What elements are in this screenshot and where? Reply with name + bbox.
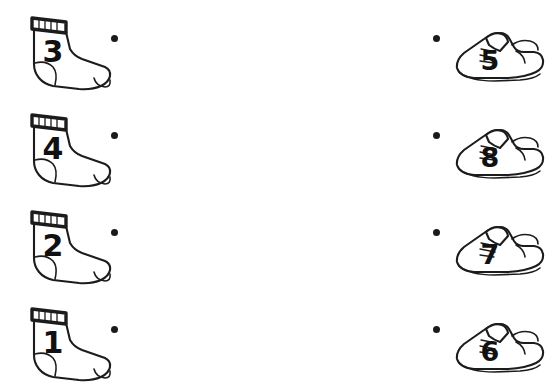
sock-number: 2 [43, 228, 64, 263]
shoe-item[interactable]: 5 [450, 18, 548, 88]
sock-item[interactable]: 2 [22, 204, 117, 292]
sock-item[interactable]: 4 [22, 107, 117, 195]
shoe-icon: 8 [450, 115, 548, 185]
sock-icon: 4 [22, 107, 117, 195]
sock-icon: 2 [22, 204, 117, 292]
matching-worksheet: 3 5 4 [0, 0, 559, 389]
shoe-icon: 7 [450, 212, 548, 282]
shoe-number: 8 [481, 142, 500, 173]
sock-icon: 3 [22, 10, 117, 98]
connector-dot-icon[interactable] [433, 35, 440, 42]
connector-dot-icon[interactable] [111, 326, 118, 333]
connector-dot-icon[interactable] [433, 229, 440, 236]
shoe-item[interactable]: 7 [450, 212, 548, 282]
shoe-icon: 6 [450, 309, 548, 379]
shoe-number: 6 [481, 336, 500, 367]
sock-number: 1 [43, 325, 64, 360]
match-row: 1 6 [0, 291, 559, 388]
shoe-item[interactable]: 8 [450, 115, 548, 185]
sock-item[interactable]: 3 [22, 10, 117, 98]
sock-number: 4 [43, 131, 64, 166]
shoe-number: 7 [481, 239, 500, 270]
match-row: 3 5 [0, 0, 559, 97]
sock-icon: 1 [22, 301, 117, 389]
sock-number: 3 [43, 34, 64, 69]
connector-dot-icon[interactable] [433, 132, 440, 139]
connector-dot-icon[interactable] [111, 132, 118, 139]
shoe-number: 5 [481, 45, 500, 76]
connector-dot-icon[interactable] [111, 35, 118, 42]
match-row: 4 8 [0, 97, 559, 194]
connector-dot-icon[interactable] [433, 326, 440, 333]
shoe-icon: 5 [450, 18, 548, 88]
sock-item[interactable]: 1 [22, 301, 117, 389]
match-row: 2 7 [0, 194, 559, 291]
connector-dot-icon[interactable] [111, 229, 118, 236]
shoe-item[interactable]: 6 [450, 309, 548, 379]
